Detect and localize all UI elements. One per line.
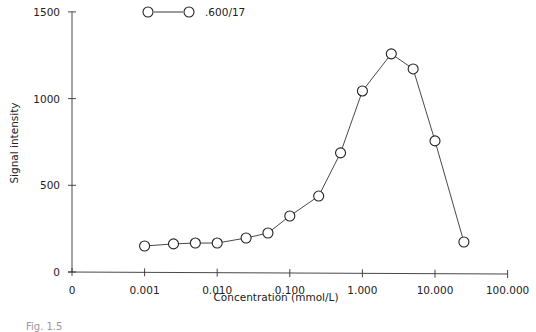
data-point-marker xyxy=(263,228,273,238)
legend-label: .600/17 xyxy=(205,6,245,18)
data-point-marker xyxy=(285,211,295,221)
y-axis-title: Signal intensity xyxy=(8,102,20,183)
data-point-marker xyxy=(430,136,440,146)
x-tick-label: 1.000 xyxy=(347,284,377,296)
data-series-markers xyxy=(140,49,469,251)
data-point-marker xyxy=(386,49,396,59)
y-tick-label: 0 xyxy=(53,266,60,278)
y-tick-label: 500 xyxy=(40,179,60,191)
series-polyline xyxy=(145,54,464,246)
x-axis-line xyxy=(68,272,508,274)
data-point-marker xyxy=(336,148,346,158)
data-point-marker xyxy=(190,238,200,248)
x-axis-title: Concentration (mmol/L) xyxy=(214,291,339,303)
legend: .600/17 xyxy=(143,6,245,18)
y-axis: 050010001500 xyxy=(33,6,76,278)
legend-marker-icon xyxy=(184,7,194,17)
data-point-marker xyxy=(357,86,367,96)
data-point-marker xyxy=(140,241,150,251)
data-point-marker xyxy=(212,238,222,248)
data-series-line xyxy=(145,54,464,246)
y-tick-label: 1000 xyxy=(33,93,60,105)
x-tick-label: 0.001 xyxy=(130,284,160,296)
legend-marker-icon xyxy=(143,7,153,17)
x-tick-label: 0 xyxy=(69,284,76,296)
x-tick-label: 10.000 xyxy=(417,284,454,296)
data-point-marker xyxy=(408,64,418,74)
x-tick-label: 100.000 xyxy=(486,284,529,296)
data-point-marker xyxy=(241,233,251,243)
data-point-marker xyxy=(459,237,469,247)
y-tick-label: 1500 xyxy=(33,6,60,18)
figure-caption: Fig. 1.5 xyxy=(26,321,62,332)
data-point-marker xyxy=(314,191,324,201)
data-point-marker xyxy=(168,239,178,249)
line-chart: 050010001500 00.0010.0100.1001.00010.000… xyxy=(0,0,536,332)
